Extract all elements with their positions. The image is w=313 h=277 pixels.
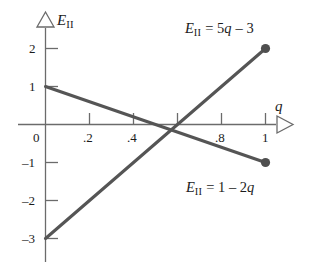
x-tick-label-0: 0 [33,131,40,144]
series-line-5q-minus-3 [46,49,266,239]
annotation-lower-variable: q [247,179,254,195]
y-tick-label-minus2: –2 [22,194,35,207]
endpoint-marker-5q-minus-3 [261,44,270,53]
y-axis-ticks [46,49,59,239]
x-tick-label-0point2: .2 [83,131,93,144]
y-axis-label-subscript: II [66,18,74,30]
x-tick-label-1: 1 [262,131,269,144]
annotation-upper-tail: – 3 [236,20,254,36]
y-tick-label-2: 2 [29,42,36,55]
x-tick-label-0point4: .4 [127,131,137,144]
y-tick-label-minus3: –3 [22,232,35,245]
annotation-lower-rhs: = 1 – 2 [206,179,247,195]
y-tick-label-minus1: –1 [22,156,35,169]
annotation-upper-subscript: II [194,27,201,38]
y-axis-label: EII [57,13,74,30]
annotation-lower-base: E [186,179,195,195]
annotation-upper-base: E [185,20,194,36]
y-axis-arrowhead-icon [37,12,54,27]
x-axis-label: q [275,99,283,114]
annotation-upper-variable: q [224,20,231,36]
y-axis-label-base: E [57,12,66,28]
annotation-upper-rhs: = 5 [205,20,224,36]
x-axis-arrowhead-icon [277,116,293,133]
annotation-lower-subscript: II [195,186,202,197]
annotation-equation-lower: EII= 1 – 2q [186,180,254,197]
endpoint-marker-1-minus-2q [261,158,270,167]
annotation-equation-upper: EII= 5q– 3 [185,21,254,38]
x-tick-label-0point8: .8 [215,131,225,144]
y-tick-label-1: 1 [29,80,36,93]
chart-figure: EII q 0 .2 .4 .8 1 2 1 –1 –2 –3 EII= 5q–… [0,0,313,277]
